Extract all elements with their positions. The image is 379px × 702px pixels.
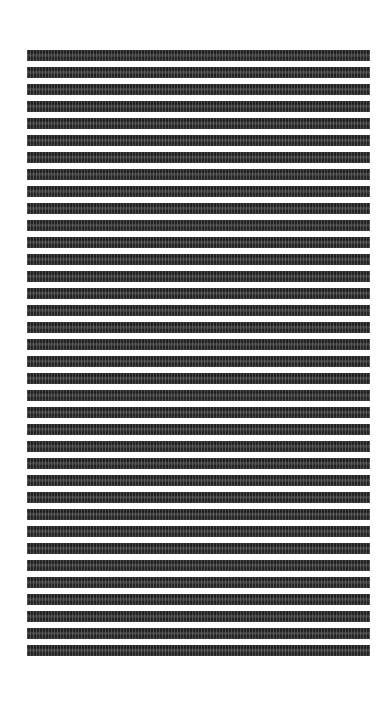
texture-speckle — [27, 50, 370, 660]
